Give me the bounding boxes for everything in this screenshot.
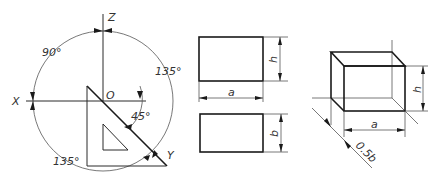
- angle-135-bottom-label: 135°: [53, 155, 80, 168]
- front-a-label: a: [228, 86, 235, 99]
- top-view-rect: [200, 114, 263, 152]
- front-view-rect: [199, 37, 263, 81]
- origin-label: O: [106, 89, 115, 102]
- box-front-face: [344, 66, 405, 111]
- orthographic-views: h a b: [199, 37, 288, 152]
- isometric-box: h a 0.5b: [312, 40, 428, 168]
- arrow-icon: [94, 28, 103, 33]
- set-square-inner: [103, 124, 128, 150]
- arrow-icon: [103, 28, 112, 33]
- y-label: Y: [167, 149, 175, 162]
- arrow-icon: [30, 92, 35, 101]
- axes-diagram: Z X O Y 90° 135° 135° 45°: [11, 11, 182, 171]
- box-h-label: h: [411, 86, 424, 93]
- front-h-label: h: [267, 56, 280, 63]
- technical-drawing: Z X O Y 90° 135° 135° 45° h a b: [0, 0, 439, 182]
- box-depth-dimension: [312, 108, 372, 168]
- angle-90-label: 90°: [42, 46, 62, 59]
- box-depth-label: 0.5b: [353, 139, 380, 166]
- top-b-label: b: [268, 130, 281, 137]
- angle-135-right-label: 135°: [155, 65, 182, 78]
- x-label: X: [11, 95, 20, 108]
- angle-45-label: 45°: [131, 110, 151, 123]
- z-label: Z: [107, 11, 116, 24]
- box-left-edges: [331, 52, 344, 111]
- box-top-face: [331, 52, 405, 66]
- arrow-icon: [30, 101, 35, 110]
- box-a-label: a: [371, 118, 378, 131]
